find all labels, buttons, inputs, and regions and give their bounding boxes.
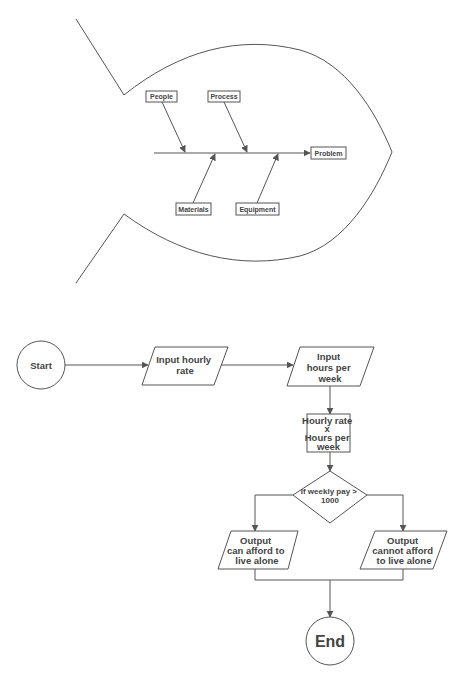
- effect-label: Problem: [314, 150, 342, 157]
- node-line: week: [317, 373, 342, 384]
- end-node: End: [306, 617, 354, 665]
- end-label: End: [315, 633, 345, 650]
- node-line: rate: [176, 365, 193, 376]
- cause-label: Materials: [178, 206, 208, 213]
- cause-label: Process: [210, 93, 237, 100]
- cause-equipment: Equipment: [236, 154, 279, 215]
- node-line: Input: [317, 351, 341, 362]
- cause-label: Equipment: [239, 206, 276, 214]
- cause-people: People: [146, 91, 185, 152]
- process-calc-node: Hourly rate x Hours per week: [302, 414, 355, 452]
- node-line: hours per: [307, 362, 351, 373]
- input-hourly-rate-node: Input hourly rate: [142, 347, 228, 385]
- connector-decision-no: [367, 495, 403, 531]
- output-cannot-afford-node: Output cannot afford to live alone: [360, 531, 447, 569]
- fishbone-diagram: Problem People Process Materials Equipme…: [76, 19, 392, 283]
- decision-node: If weekly pay > 1000: [293, 471, 367, 523]
- start-label: Start: [30, 360, 52, 371]
- connector-merge: [255, 569, 403, 580]
- effect-box-problem: Problem: [311, 147, 346, 159]
- cause-label: People: [150, 93, 173, 101]
- node-line: If weekly pay >: [301, 487, 358, 496]
- start-node: Start: [17, 341, 65, 389]
- input-hours-per-week-node: Input hours per week: [287, 347, 374, 386]
- flowchart-diagram: Start Input hourly rate Input hours per …: [17, 341, 447, 665]
- cause-process: Process: [208, 91, 247, 152]
- node-line: 1000: [321, 496, 339, 505]
- connector-decision-yes: [255, 495, 293, 531]
- node-line: week: [316, 441, 341, 452]
- node-line: live alone: [235, 555, 278, 566]
- node-line: Input hourly: [156, 354, 212, 365]
- output-can-afford-node: Output can afford to live alone: [218, 531, 298, 569]
- node-line: to live alone: [377, 555, 432, 566]
- cause-materials: Materials: [176, 154, 215, 215]
